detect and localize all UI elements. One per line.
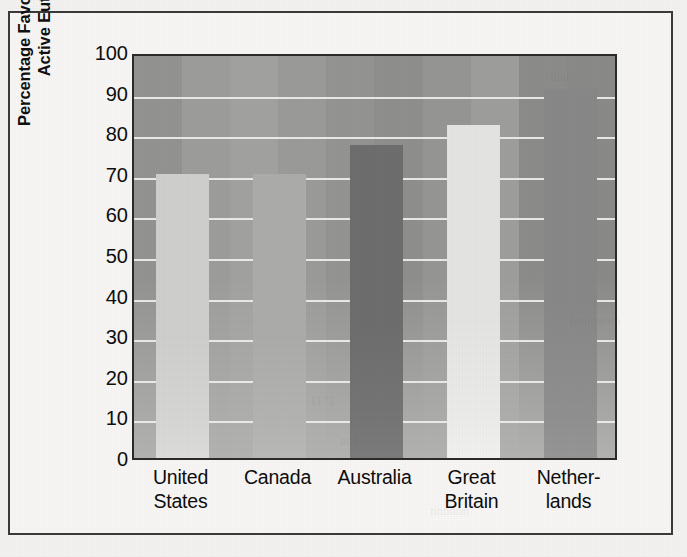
bar-series — [134, 56, 615, 458]
x-tick-label-canada: Canada — [229, 465, 326, 527]
y-axis-title-line-2: Active Euthanasia — [34, 0, 54, 161]
bar-canada — [253, 174, 306, 458]
x-axis-tick-labels: UnitedStatesCanadaAustraliaGreatBritainN… — [132, 465, 617, 527]
y-tick-label-70: 70 — [72, 165, 128, 185]
plot-area — [132, 54, 617, 460]
x-tick-label-line: United — [132, 465, 229, 489]
y-tick-label-80: 80 — [72, 124, 128, 144]
y-tick-label-10: 10 — [72, 408, 128, 428]
x-tick-label-australia: Australia — [326, 465, 423, 527]
x-tick-label-line: Nether- — [520, 465, 617, 489]
x-tick-label-netherlands: Nether-lands — [520, 465, 617, 527]
y-tick-label-100: 100 — [72, 43, 128, 63]
x-tick-label-great-britain: GreatBritain — [423, 465, 520, 527]
x-tick-label-line: States — [132, 489, 229, 513]
x-tick-label-line: Australia — [326, 465, 423, 489]
x-tick-label-line: Britain — [423, 489, 520, 513]
y-tick-label-40: 40 — [72, 287, 128, 307]
bar-united-states — [156, 174, 209, 458]
page-background: Percentage Favoring Voluntary Active Eut… — [0, 0, 687, 557]
y-tick-label-60: 60 — [72, 205, 128, 225]
bar-great-britain — [447, 125, 500, 458]
x-tick-label-line: Canada — [229, 465, 326, 489]
x-tick-label-line: lands — [520, 489, 617, 513]
y-tick-label-30: 30 — [72, 327, 128, 347]
y-axis-tick-labels: 1009080706050403020100 — [72, 43, 128, 451]
bar-chart: Percentage Favoring Voluntary Active Eut… — [10, 13, 675, 537]
bar-netherlands — [544, 89, 597, 458]
y-tick-label-0: 0 — [72, 449, 128, 469]
x-tick-label-line: Great — [423, 465, 520, 489]
y-tick-label-50: 50 — [72, 246, 128, 266]
y-axis-title: Percentage Favoring Voluntary Active Eut… — [14, 0, 58, 161]
y-tick-label-20: 20 — [72, 368, 128, 388]
x-tick-label-united-states: UnitedStates — [132, 465, 229, 527]
bar-australia — [350, 145, 403, 458]
figure-frame: Percentage Favoring Voluntary Active Eut… — [8, 11, 673, 535]
y-tick-label-90: 90 — [72, 84, 128, 104]
y-axis-title-line-1: Percentage Favoring Voluntary — [14, 0, 34, 161]
